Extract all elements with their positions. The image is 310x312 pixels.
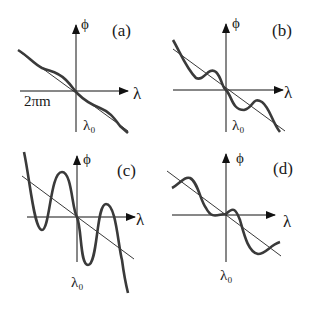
panel-a-x-label: λ bbox=[133, 85, 141, 102]
panel-c-x-label: λ bbox=[136, 211, 144, 228]
phase-curve bbox=[24, 152, 128, 293]
panel-d-x-label: λ bbox=[283, 213, 291, 230]
panel-c-origin-label: λ₀ bbox=[71, 275, 84, 290]
panel-d bbox=[167, 154, 281, 262]
panel-a-tag: (a) bbox=[112, 22, 131, 39]
panel-b bbox=[173, 24, 285, 132]
panel-a-origin-label: λ₀ bbox=[83, 118, 96, 133]
panel-b-x-label: λ bbox=[284, 84, 292, 101]
panel-c-y-label: ϕ bbox=[83, 152, 91, 167]
panel-d-origin-label: λ₀ bbox=[220, 268, 233, 283]
panel-a-y-label: ϕ bbox=[81, 17, 89, 32]
panel-c-tag: (c) bbox=[117, 162, 136, 179]
panel-b-y-label: ϕ bbox=[232, 16, 240, 31]
panel-b-tag: (b) bbox=[272, 22, 292, 39]
panel-a-2pim-label: 2πm bbox=[24, 94, 51, 109]
panel-b-origin-label: λ₀ bbox=[232, 118, 245, 133]
figure-canvas bbox=[0, 0, 310, 312]
panel-a bbox=[18, 25, 128, 133]
panel-d-tag: (d) bbox=[273, 160, 293, 177]
panel-d-y-label: ϕ bbox=[236, 151, 244, 166]
